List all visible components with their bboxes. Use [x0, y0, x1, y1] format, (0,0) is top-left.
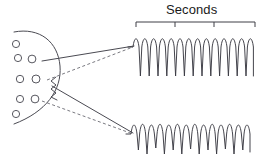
hair-cell-1: [12, 40, 19, 47]
lower-waveform: [126, 124, 250, 154]
hair-cell-8: [12, 110, 19, 117]
hair-cell-5: [32, 75, 40, 83]
hair-cell-4: [16, 75, 23, 82]
lower-trace-path: [126, 124, 250, 154]
hair-cell-7: [31, 95, 39, 103]
scale-bar: [136, 22, 255, 27]
hair-cell-2: [14, 54, 21, 61]
connector-lower-dashed: [42, 101, 133, 134]
connector-upper-solid: [42, 46, 134, 61]
figure-root: Seconds: [0, 0, 261, 166]
hair-cell-3: [28, 55, 36, 63]
upper-trace-path: [128, 39, 253, 76]
upper-waveform: [128, 39, 253, 76]
figure-canvas: [0, 0, 261, 166]
hair-cell-6: [16, 95, 23, 102]
